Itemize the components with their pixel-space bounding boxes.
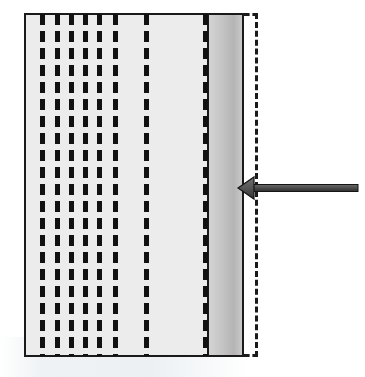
load-arrow: [236, 170, 362, 206]
figure-root: [0, 0, 365, 377]
figure-caption: [0, 0, 1, 1]
